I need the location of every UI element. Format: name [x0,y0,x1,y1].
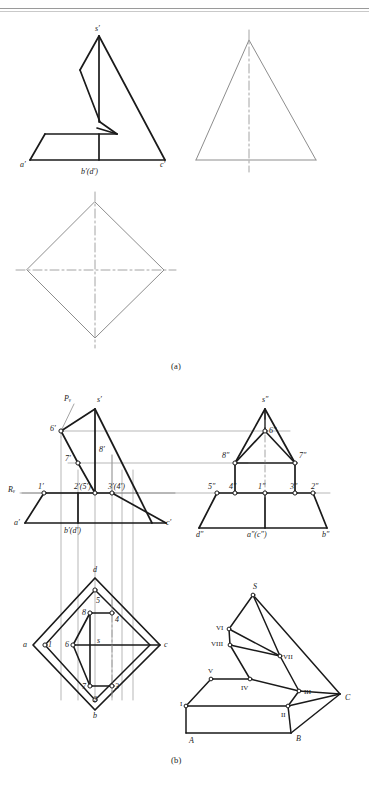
label-fig-b-point-b: b [93,712,97,720]
label-fig-b-vertex-VI: VI [216,624,223,632]
label-fig-b-apex-S: S [253,583,257,591]
fig-b-pictorial-lines [186,595,340,733]
label-fig-b-point-7: 7 [82,683,86,691]
label-fig-b-c-prime: c′ [166,519,171,527]
label-fig-b-point-5-dprime: 5″ [208,483,215,491]
label-fig-b-vertex-VIII: VIII [211,640,223,648]
label-fig-b-rv-axis: Rᵥ [8,486,15,494]
fig-a-front-view-lines [30,36,165,160]
label-fig-b-point-2-5-prime: 2′(5′) [74,483,91,491]
label-fig-b-point-2-dprime: 2″ [311,483,318,491]
label-fig-a-a-prime: a′ [20,161,26,169]
label-fig-b-b-dprime: b″ [322,531,329,539]
label-fig-b-point-d: d [93,566,97,574]
label-fig-b-point-7-dprime: 7″ [299,452,306,460]
label-fig-b-vertex-VII: VII [283,653,293,661]
caption-figure-a: (a) [171,361,181,371]
label-fig-b-vertex-A: A [189,737,194,745]
label-fig-b-pv-plane: Pᵥ [64,395,71,403]
label-fig-b-point-8: 8 [82,609,86,617]
label-fig-b-point-4-dprime: 4″ [229,483,236,491]
label-fig-b-point-a: a [23,641,27,649]
label-fig-b-vertex-II: II [281,711,286,719]
label-fig-b-point-3-4-prime: 3′(4′) [108,483,125,491]
label-fig-b-point-c: c [164,641,168,649]
label-fig-b-point-1-dprime: 1″ [258,483,265,491]
label-fig-b-point-2: 2 [93,696,97,704]
label-fig-b-vertex-III: III [304,688,311,696]
label-fig-b-vertex-V: V [208,667,213,675]
label-fig-a-c-prime: c′ [160,161,165,169]
label-fig-b-point-4: 4 [115,616,119,624]
label-fig-b-b-d-prime: b′(d′) [64,527,81,535]
label-fig-b-point-s: s [97,637,100,645]
drawing-canvas [0,0,369,787]
fig-a-side-view-lines [196,40,316,160]
label-fig-b-point-6-prime: 6′ [50,425,56,433]
label-fig-b-vertex-I: I [180,700,182,708]
label-fig-b-point-5: 5 [96,597,100,605]
caption-figure-b: (b) [171,755,182,765]
label-fig-b-d-dprime: d″ [196,531,203,539]
label-fig-b-point-3-dprime: 3″ [290,483,297,491]
label-fig-a-s-prime: s′ [95,25,100,33]
label-fig-b-point-8-prime: 8′ [99,446,105,454]
label-fig-b-point-8-dprime: 8″ [222,452,229,460]
fig-a-top-view-centerlines [16,192,176,348]
fig-b-side-view-lines [199,409,327,528]
label-fig-b-s-prime: s′ [97,396,102,404]
label-fig-b-vertex-B: B [296,735,301,743]
fig-b-front-view-lines [25,409,166,523]
label-fig-b-point-1: 1 [48,641,52,649]
label-fig-b-point-6-dprime: 6″ [269,427,276,435]
label-fig-b-vertex-IV: IV [241,684,248,692]
label-fig-b-vertex-C: C [345,694,350,702]
label-fig-b-point-7-prime: 7′ [65,455,71,463]
label-fig-b-a-prime: a′ [14,519,20,527]
label-fig-a-b-d-prime: b′(d′) [81,168,98,176]
label-fig-b-point-6: 6 [65,641,69,649]
label-fig-b-a-c-dprime: a″(c″) [247,531,267,539]
label-fig-b-s-dprime: s″ [262,396,268,404]
label-fig-b-point-3: 3 [115,683,119,691]
label-fig-b-point-1-prime: 1′ [38,483,44,491]
